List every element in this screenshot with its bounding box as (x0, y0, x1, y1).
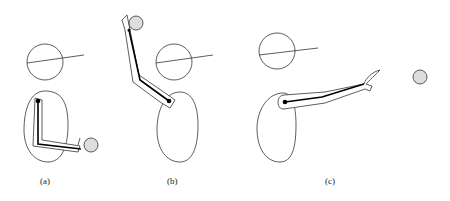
ball-c (413, 70, 427, 84)
label-a: (a) (40, 176, 50, 186)
body-a (24, 91, 68, 162)
figure-a (24, 44, 98, 162)
joint-shoulder-a (36, 99, 41, 104)
head-line-a (27, 55, 84, 63)
figure-b (122, 15, 213, 162)
label-b: (b) (167, 176, 178, 186)
ball-a (84, 138, 98, 152)
arm-outline-c (278, 70, 380, 109)
head-line-c (259, 48, 318, 55)
figure-c (257, 33, 427, 162)
ball-b (129, 16, 143, 30)
joint-shoulder-c (283, 100, 288, 105)
throwing-diagram (0, 0, 450, 201)
joint-shoulder-b (167, 99, 172, 104)
head-line-b (156, 55, 213, 63)
label-c: (c) (325, 176, 335, 186)
